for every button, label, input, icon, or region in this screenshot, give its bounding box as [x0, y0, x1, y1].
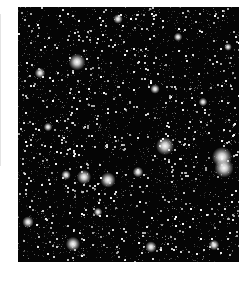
star-field-image [18, 7, 239, 262]
left-divider-line [0, 14, 1, 166]
star-field-canvas [18, 7, 239, 262]
